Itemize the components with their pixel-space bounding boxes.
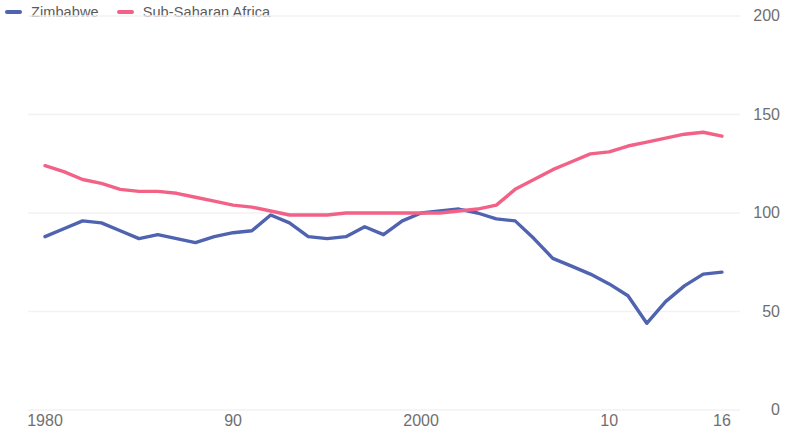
x-axis-tick-label: 90 xyxy=(224,412,242,430)
series-line-sub-saharan-africa xyxy=(45,132,722,215)
series-line-zimbabwe xyxy=(45,209,722,323)
y-axis-tick-label: 200 xyxy=(753,7,780,25)
y-axis-tick-label: 50 xyxy=(762,303,780,321)
x-axis-tick-label: 10 xyxy=(600,412,618,430)
x-axis-tick-label: 16 xyxy=(713,412,731,430)
y-axis-tick-label: 0 xyxy=(771,401,780,419)
y-axis-tick-label: 150 xyxy=(753,106,780,124)
line-chart: Zimbabwe Sub-Saharan Africa 050100150200… xyxy=(0,0,793,446)
x-axis-tick-label: 2000 xyxy=(403,412,439,430)
series-lines xyxy=(45,132,722,323)
y-axis-tick-label: 100 xyxy=(753,204,780,222)
plot-area xyxy=(0,0,793,446)
x-axis-tick-label: 1980 xyxy=(27,412,63,430)
